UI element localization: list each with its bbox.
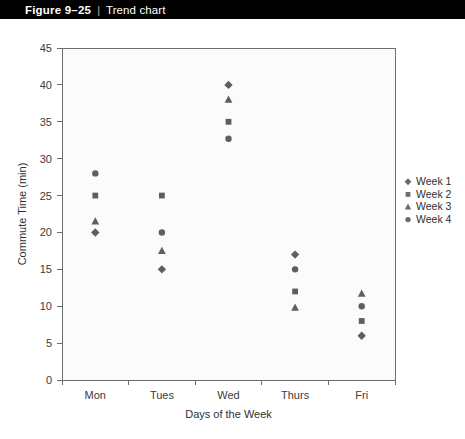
x-axis: MonTuesWedThursFri — [62, 380, 395, 401]
data-point-week-2-wed — [226, 119, 232, 125]
data-point-week-4-fri — [359, 303, 365, 309]
y-tick-label: 15 — [40, 263, 52, 275]
data-point-week-4-thurs — [292, 266, 298, 272]
figure-header-text: Figure 9–25 | Trend chart — [25, 0, 165, 19]
x-tick-label-wed: Wed — [217, 389, 239, 401]
y-tick-label: 10 — [40, 300, 52, 312]
legend-marker-week-4 — [405, 217, 410, 222]
y-tick-label: 20 — [40, 226, 52, 238]
y-axis-title: Commute Time (min) — [16, 163, 28, 266]
y-tick-label: 30 — [40, 153, 52, 165]
data-point-week-2-fri — [359, 318, 365, 324]
data-point-week-4-tues — [159, 229, 165, 235]
data-point-week-2-tues — [159, 193, 165, 199]
x-tick-label-fri: Fri — [355, 389, 368, 401]
y-tick-label: 25 — [40, 190, 52, 202]
legend-marker-week-2 — [406, 192, 411, 197]
x-tick-label-tues: Tues — [150, 389, 175, 401]
chart-legend: Week 1Week 2Week 3Week 4 — [405, 175, 452, 225]
legend-label-week-4: Week 4 — [416, 213, 452, 225]
legend-label-week-1: Week 1 — [416, 175, 452, 187]
figure-title: Trend chart — [106, 4, 165, 16]
x-axis-title: Days of the Week — [185, 408, 272, 420]
data-point-week-2-thurs — [292, 289, 298, 295]
legend-marker-week-3 — [405, 204, 411, 210]
figure-number: Figure 9–25 — [25, 4, 91, 16]
data-point-week-2-mon — [92, 193, 98, 199]
legend-label-week-2: Week 2 — [416, 188, 452, 200]
y-tick-label: 5 — [46, 337, 52, 349]
y-tick-label: 40 — [40, 79, 52, 91]
legend-marker-week-1 — [405, 178, 412, 185]
scatter-chart: 051015202530354045 MonTuesWedThursFri We… — [0, 19, 465, 439]
data-point-week-4-mon — [92, 170, 98, 176]
legend-label-week-3: Week 3 — [416, 200, 452, 212]
figure-separator: | — [97, 4, 100, 16]
y-tick-label: 35 — [40, 116, 52, 128]
x-tick-label-thurs: Thurs — [281, 389, 310, 401]
y-tick-label: 45 — [40, 42, 52, 54]
figure-header-bar: Figure 9–25 | Trend chart — [0, 0, 465, 19]
x-tick-label-mon: Mon — [85, 389, 106, 401]
y-tick-label: 0 — [46, 374, 52, 386]
data-point-week-4-wed — [225, 136, 231, 142]
trend-chart-figure: 051015202530354045 MonTuesWedThursFri We… — [0, 19, 465, 439]
